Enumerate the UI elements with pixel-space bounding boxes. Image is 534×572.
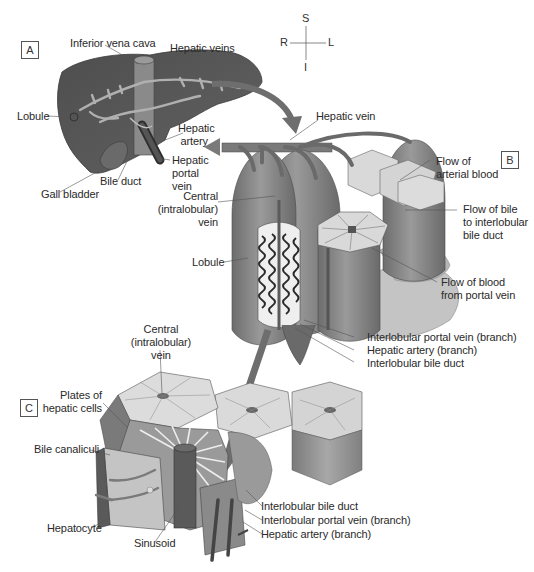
- compass-superior: S: [302, 12, 309, 24]
- label-interlobular-portal-vein-c: Interlobular portal vein (branch): [261, 514, 411, 527]
- label-flow-arterial-blood: Flow of arterial blood: [436, 155, 498, 181]
- compass-inferior: I: [304, 61, 307, 73]
- compass-left: L: [328, 36, 334, 48]
- compass-right: R: [280, 36, 288, 48]
- label-bile-canaliculi: Bile canaliculi: [34, 443, 99, 456]
- panel-tag-b: B: [501, 151, 519, 169]
- label-hepatic-artery: Hepatic artery: [178, 122, 208, 148]
- panel-tag-a: A: [21, 41, 39, 59]
- label-hepatic-veins: Hepatic veins: [170, 42, 235, 55]
- label-interlobular-bile-duct-b: Interlobular bile duct: [367, 357, 464, 370]
- liver-diagram: S I R L A B C Inferior vena cava Hepatic…: [0, 0, 534, 572]
- label-inferior-vena-cava: Inferior vena cava: [70, 37, 156, 50]
- label-hepatic-artery-branch-c: Hepatic artery (branch): [261, 528, 371, 541]
- label-hepatocyte: Hepatocyte: [47, 522, 102, 535]
- label-flow-of-bile: Flow of bile to interlobular bile duct: [463, 203, 528, 242]
- label-central-vein-b: Central (intralobular) vein: [150, 190, 218, 229]
- label-flow-portal-blood: Flow of blood from portal vein: [441, 276, 515, 302]
- label-gall-bladder: Gall bladder: [41, 188, 99, 201]
- label-hepatic-artery-branch-b: Hepatic artery (branch): [367, 344, 477, 357]
- label-bile-duct: Bile duct: [100, 175, 141, 188]
- label-lobule-a: Lobule: [17, 110, 49, 123]
- label-interlobular-portal-vein-b: Interlobular portal vein (branch): [367, 331, 517, 344]
- label-plates-hepatic-cells: Plates of hepatic cells: [30, 389, 102, 415]
- label-hepatic-vein: Hepatic vein: [316, 110, 375, 123]
- label-interlobular-bile-duct-c: Interlobular bile duct: [261, 500, 358, 513]
- label-sinusoid: Sinusoid: [134, 537, 175, 550]
- label-hepatic-portal-vein: Hepatic portal vein: [172, 154, 209, 193]
- label-lobule-b: Lobule: [192, 256, 224, 269]
- label-central-vein-c: Central (intralobular) vein: [120, 323, 202, 362]
- orientation-compass-lines: [290, 26, 326, 60]
